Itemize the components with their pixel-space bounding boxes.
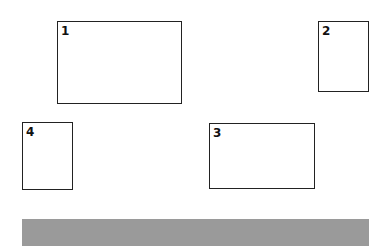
box-1: 1: [57, 21, 182, 104]
box-3-label: 3: [213, 126, 221, 140]
box-2-label: 2: [322, 24, 330, 38]
box-4-label: 4: [26, 125, 34, 139]
box-3: 3: [209, 123, 315, 189]
box-4: 4: [22, 122, 73, 190]
gray-band: [22, 219, 369, 246]
box-1-label: 1: [61, 24, 69, 38]
box-2: 2: [318, 21, 369, 92]
